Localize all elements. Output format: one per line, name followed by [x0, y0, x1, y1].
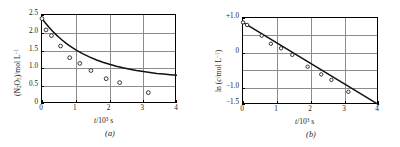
data-layer-a: [42, 15, 177, 104]
x-axis-title-a: t/103 s: [94, 116, 113, 125]
data-point: [78, 62, 82, 66]
xtick-label: 2: [107, 105, 111, 112]
data-point: [279, 47, 282, 50]
data-point: [50, 34, 54, 38]
data-point: [330, 78, 333, 81]
data-layer-b: [243, 18, 379, 105]
data-point: [68, 56, 72, 60]
data-point: [291, 53, 294, 56]
data-point: [241, 21, 244, 24]
data-point: [40, 17, 44, 21]
figure-container: 0 1 2 3 4 0 0.5 1.0 1.5 2.0 2.5 (N2O5)/m…: [0, 0, 400, 147]
data-point: [245, 23, 248, 26]
panel-caption-a: (a): [105, 129, 115, 138]
data-point: [306, 65, 309, 68]
data-point: [320, 73, 323, 76]
ytick-label: +1.0: [218, 13, 239, 20]
data-point: [260, 34, 263, 37]
ytick-label: 1.5: [21, 46, 38, 53]
xtick-label: 4: [174, 105, 178, 112]
data-point: [347, 90, 350, 93]
chart-panel-b: 0 1 2 3 4 +1.0 0 −1.0 −1.5 ln (c/mol L−1…: [200, 0, 400, 147]
data-point: [146, 91, 150, 95]
ytick-label: 2.0: [21, 28, 38, 35]
plot-area-a: [41, 14, 176, 103]
data-point: [269, 42, 272, 45]
data-point: [44, 28, 48, 32]
data-point: [118, 81, 122, 85]
y-axis-title-a: (N2O5)/mol L−1: [13, 49, 22, 96]
ytick-label: −1.5: [218, 99, 239, 106]
xtick-label: 1: [274, 106, 278, 113]
x-axis-title-b: t/103 s: [295, 117, 314, 126]
panel-caption-b: (b): [306, 130, 316, 139]
ytick-label: 2.5: [21, 10, 38, 17]
ytick-label: 0: [21, 99, 38, 106]
xtick-label: 3: [140, 105, 144, 112]
data-point: [59, 44, 63, 48]
plot-area-b: [242, 17, 378, 104]
xtick-label: 3: [342, 106, 346, 113]
ytick-label: 0.5: [21, 82, 38, 89]
xtick-label: 0: [39, 105, 43, 112]
data-point: [104, 77, 108, 81]
xtick-label: 2: [308, 106, 312, 113]
ytick-label: 1.0: [21, 64, 38, 71]
data-point: [89, 69, 93, 73]
chart-panel-a: 0 1 2 3 4 0 0.5 1.0 1.5 2.0 2.5 (N2O5)/m…: [0, 0, 200, 147]
xtick-label: 0: [240, 106, 244, 113]
y-axis-title-b: ln (c/mol L−1): [214, 50, 223, 92]
xtick-label: 1: [73, 105, 77, 112]
xtick-label: 4: [375, 106, 379, 113]
